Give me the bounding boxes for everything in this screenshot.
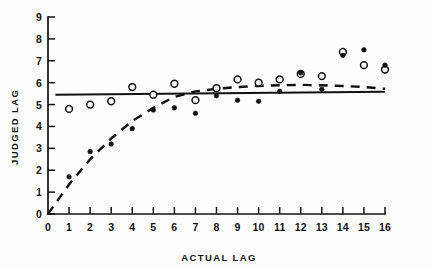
data-point-filled-dot <box>130 126 135 131</box>
x-axis-tick-label: 8 <box>213 221 219 233</box>
data-point-open-circle <box>108 98 115 105</box>
data-point-open-circle <box>234 76 241 83</box>
data-point-filled-dot <box>320 87 325 92</box>
data-point-open-circle <box>171 80 178 87</box>
x-axis-tick-label: 15 <box>358 221 370 233</box>
data-point-filled-dot <box>383 63 388 68</box>
data-point-filled-dot <box>88 149 93 154</box>
data-point-filled-dot <box>151 108 156 113</box>
x-axis-tick-label: 2 <box>87 221 93 233</box>
y-axis-tick-label: 4 <box>36 120 42 132</box>
y-axis-tick-label: 9 <box>36 11 42 23</box>
y-axis-tick-label: 7 <box>36 55 42 67</box>
x-axis-tick-label: 3 <box>108 221 114 233</box>
y-axis-tick-label: 2 <box>36 164 42 176</box>
data-point-open-circle <box>129 84 136 91</box>
fit-lines <box>48 85 385 214</box>
data-point-open-circle <box>66 106 73 113</box>
x-axis-tick-label: 0 <box>45 221 51 233</box>
data-point-filled-dot <box>362 48 367 53</box>
x-axis-tick-label: 11 <box>274 221 286 233</box>
data-point-filled-dot <box>193 111 198 116</box>
x-axis-tick-label: 1 <box>66 221 72 233</box>
data-point-filled-dot <box>256 99 261 104</box>
x-axis-tick-label: 14 <box>337 221 349 233</box>
x-axis-tick-label: 6 <box>171 221 177 233</box>
x-axis-tick-label: 5 <box>150 221 156 233</box>
data-point-filled-dot <box>172 106 177 111</box>
x-axis-title: ACTUAL LAG <box>181 252 257 263</box>
data-point-open-circle <box>276 76 283 83</box>
y-axis-title: JUDGED LAG <box>9 89 20 165</box>
x-axis-tick-label: 10 <box>253 221 265 233</box>
chart-figure: JUDGED LAG ACTUAL LAG 0123456789 0123456… <box>0 0 432 269</box>
data-point-filled-dot <box>235 98 240 103</box>
data-point-open-circle <box>318 73 325 80</box>
y-axis-tick-label: 1 <box>36 186 42 198</box>
data-point-filled-dot <box>67 174 72 179</box>
data-point-filled-dot <box>277 89 282 94</box>
scatter-plot-svg: JUDGED LAG ACTUAL LAG 0123456789 0123456… <box>0 0 432 269</box>
x-axis-tick-label: 16 <box>379 221 391 233</box>
x-axis-tick-label: 12 <box>295 221 307 233</box>
x-axis-tick-label: 9 <box>235 221 241 233</box>
y-axis-tick-label: 0 <box>36 208 42 220</box>
data-point-filled-dot <box>341 53 346 58</box>
x-axis-tick-label: 4 <box>129 221 135 233</box>
horizontal-fit-line <box>55 92 385 95</box>
y-axis-tick-label: 6 <box>36 77 42 89</box>
y-axis: 0123456789 <box>36 11 55 220</box>
data-point-open-circle <box>192 97 199 104</box>
y-axis-tick-label: 3 <box>36 142 42 154</box>
x-axis-tick-label: 13 <box>316 221 328 233</box>
y-axis-tick-label: 8 <box>36 33 42 45</box>
x-axis-tick-label: 7 <box>192 221 198 233</box>
data-point-filled-dot <box>298 71 303 76</box>
data-points <box>66 48 389 180</box>
data-point-filled-dot <box>109 142 114 147</box>
data-point-open-circle <box>361 62 368 69</box>
data-point-open-circle <box>87 101 94 108</box>
negatively-accelerated-fit-curve <box>48 85 385 214</box>
data-point-open-circle <box>150 91 157 98</box>
y-axis-tick-label: 5 <box>36 99 42 111</box>
y-axis-title-group: JUDGED LAG <box>9 89 20 165</box>
data-point-open-circle <box>255 79 262 86</box>
x-axis: 012345678910111213141516 <box>45 207 391 233</box>
data-point-filled-dot <box>214 94 219 99</box>
data-point-open-circle <box>213 85 220 92</box>
